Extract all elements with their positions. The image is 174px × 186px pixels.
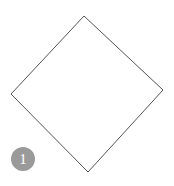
- step-number-badge: 1: [11, 147, 35, 171]
- diamond-shape: [11, 16, 163, 172]
